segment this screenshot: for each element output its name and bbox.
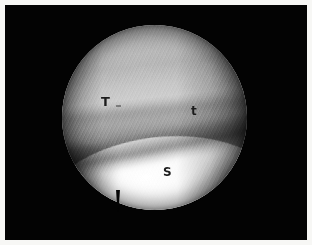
photograph-frame: T t S	[0, 0, 312, 245]
annotation-tick-mark	[116, 105, 121, 107]
aperture-vignette	[62, 25, 247, 210]
scope-background: T t S	[5, 5, 307, 240]
endoscopic-field-of-view	[62, 25, 247, 210]
annotation-label-t-minor: t	[191, 105, 197, 117]
annotation-label-t-major: T	[101, 95, 110, 108]
annotation-label-s: S	[163, 166, 172, 178]
